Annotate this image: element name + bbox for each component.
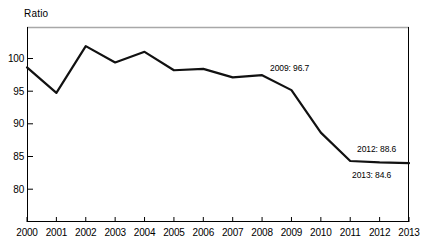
line-chart-plot: 100 95 90 85 80 200020012002200320042005… — [0, 0, 422, 252]
chart-container: Ratio 100 95 90 85 80 200020012002200320… — [0, 0, 422, 252]
y-axis-labels: 100 95 90 85 80 — [8, 53, 25, 195]
plot-frame — [27, 27, 409, 222]
x-axis-label-2000: 2000 — [16, 227, 38, 238]
y-axis-label-80: 80 — [13, 184, 24, 195]
data-series-line — [27, 46, 409, 163]
x-axis-label-2013: 2013 — [398, 227, 420, 238]
annotation-2013: 2013: 84.6 — [352, 170, 392, 180]
y-axis-label-100: 100 — [8, 53, 25, 64]
x-axis-label-2003: 2003 — [104, 227, 126, 238]
x-axis-label-2010: 2010 — [310, 227, 332, 238]
x-axis-label-2001: 2001 — [46, 227, 68, 238]
y-axis-label-90: 90 — [13, 118, 24, 129]
x-axis-label-2008: 2008 — [251, 227, 273, 238]
x-axis-label-2004: 2004 — [134, 227, 156, 238]
x-axis-label-2002: 2002 — [75, 227, 97, 238]
annotation-2009: 2009: 96.7 — [270, 63, 310, 73]
x-axis-label-2007: 2007 — [222, 227, 244, 238]
x-axis-label-2006: 2006 — [193, 227, 215, 238]
x-axis-label-2011: 2011 — [340, 227, 361, 238]
x-axis-label-2005: 2005 — [163, 227, 185, 238]
y-axis-label-95: 95 — [13, 86, 24, 97]
x-axis-label-2009: 2009 — [281, 227, 303, 238]
x-axis-labels: 2000200120022003200420052006200720082009… — [16, 227, 420, 238]
y-axis-label-85: 85 — [13, 151, 24, 162]
x-axis-label-2012: 2012 — [369, 227, 391, 238]
annotation-2012: 2012: 88.6 — [357, 144, 397, 154]
